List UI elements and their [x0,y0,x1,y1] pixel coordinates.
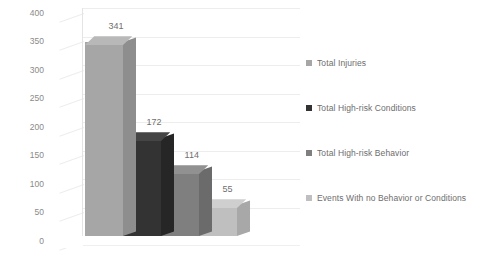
legend-label: Total High-risk Conditions [317,103,416,113]
bar[interactable] [85,42,123,236]
legend-item[interactable]: Total High-risk Conditions [306,103,416,113]
bar-data-label: 55 [223,184,233,194]
bar-front-face [85,42,123,236]
bar-group: 34117211455 [58,8,300,248]
legend-item[interactable]: Total High-risk Behavior [306,148,409,158]
y-axis-tick-label: 0 [14,237,44,246]
bar-side-face [199,166,212,236]
bar-data-label: 172 [147,117,162,127]
y-axis-tick-label: 150 [14,151,44,160]
chart-3d-column: 400350300250200150100500 34117211455 Tot… [0,0,480,262]
legend-swatch-icon [306,150,312,156]
bar-data-label: 341 [109,21,124,31]
legend-label: Total Injuries [317,58,366,68]
y-axis-tick-label: 50 [14,208,44,217]
legend-swatch-icon [306,105,312,111]
y-axis-tick-label: 250 [14,94,44,103]
y-axis-tick-label: 200 [14,123,44,132]
legend-item[interactable]: Events With no Behavior or Conditions [306,193,466,203]
y-axis-tick-label: 100 [14,180,44,189]
legend-label: Events With no Behavior or Conditions [317,193,466,203]
bar-side-face [161,133,174,236]
y-axis-tick-label: 400 [14,9,44,18]
legend-swatch-icon [306,60,312,66]
legend-item[interactable]: Total Injuries [306,58,366,68]
legend-swatch-icon [306,195,312,201]
bar-data-label: 114 [185,150,199,160]
y-axis-tick-label: 300 [14,66,44,75]
legend-label: Total High-risk Behavior [317,148,409,158]
bar-side-face [123,37,136,236]
y-axis-tick-label: 350 [14,37,44,46]
value-axis: 400350300250200150100500 [12,8,44,248]
